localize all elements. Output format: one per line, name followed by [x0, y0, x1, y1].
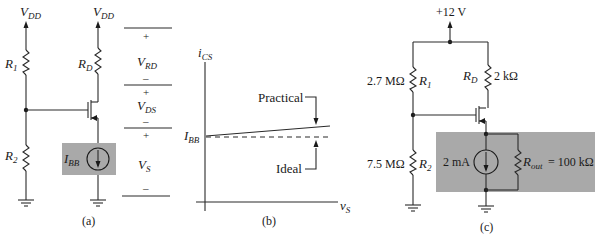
vds-label: VDS — [137, 98, 156, 115]
resistor-r1 — [410, 67, 416, 92]
resistor-rd — [95, 48, 101, 74]
vdd-right-label: VDD — [93, 4, 114, 21]
svg-text:–: – — [142, 115, 149, 127]
svg-text:–: – — [142, 182, 149, 194]
figure-canvas: VDD R1 R2 VDD RD — [0, 0, 601, 236]
practical-pointer — [305, 97, 316, 118]
resistor-rd — [485, 65, 491, 90]
svg-text:+: + — [143, 129, 149, 141]
ground-icon — [405, 205, 421, 211]
practical-annotation: Practical — [258, 90, 304, 105]
svg-text:+: + — [143, 86, 149, 98]
panel-c-circuit: +12 V 2.7 MΩ R1 7.5 MΩ R2 RD 2 kΩ — [367, 5, 595, 234]
practical-line — [206, 126, 330, 136]
ideal-pointer — [305, 148, 316, 169]
voltage-division-scale: + VRD – + VDS – + VS – — [122, 28, 172, 196]
panel-b-graph: iCS vS IBB Practical Ideal (b) — [183, 45, 351, 228]
ground-icon — [18, 200, 34, 206]
supply-label: +12 V — [436, 5, 467, 19]
resistor-r2 — [23, 145, 29, 171]
ground-icon — [90, 200, 106, 206]
r2-label: R2 — [418, 156, 432, 173]
rout-value: = 100 kΩ — [548, 155, 594, 169]
r1-label: R1 — [418, 73, 431, 90]
svg-text:+: + — [143, 30, 149, 42]
caption-b: (b) — [262, 214, 276, 228]
r2-label: R2 — [4, 148, 18, 165]
vdd-arrow-icon — [24, 21, 29, 28]
ideal-annotation: Ideal — [276, 161, 302, 176]
arrow-up-icon — [314, 140, 319, 147]
mosfet-transistor — [88, 100, 98, 121]
vdd-arrow-icon — [96, 21, 101, 28]
resistor-r1 — [23, 50, 29, 75]
supply-arrow-icon — [448, 21, 453, 28]
rd-value: 2 kΩ — [494, 69, 518, 83]
x-axis-label: vS — [340, 198, 351, 215]
svg-text:–: – — [142, 72, 149, 84]
r1-value: 2.7 MΩ — [367, 74, 405, 88]
y-axis-label: iCS — [198, 45, 213, 62]
vrd-label: VRD — [137, 54, 157, 71]
ground-icon — [478, 206, 494, 212]
resistor-r2 — [410, 150, 416, 175]
vdd-left-label: VDD — [20, 4, 41, 21]
rd-label: RD — [462, 68, 478, 85]
r2-value: 7.5 MΩ — [367, 157, 405, 171]
caption-c: (c) — [480, 220, 493, 234]
panel-a-circuit: VDD R1 R2 VDD RD — [4, 4, 172, 228]
r1-label: R1 — [4, 56, 17, 73]
ibb-tick-label: IBB — [183, 128, 200, 145]
source-value: 2 mA — [443, 155, 470, 169]
caption-a: (a) — [82, 214, 95, 228]
rd-label: RD — [77, 56, 93, 73]
arrow-down-icon — [314, 118, 319, 125]
vs-label: VS — [138, 157, 151, 174]
mosfet-transistor — [476, 106, 486, 124]
